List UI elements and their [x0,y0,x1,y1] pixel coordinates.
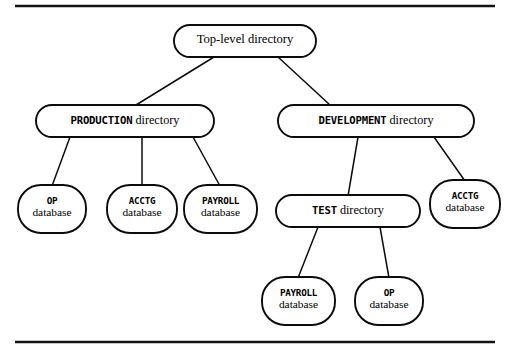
node-label-development-acctg-database-name: ACCTG [430,191,500,201]
node-test-op-database[interactable]: OP database [355,288,423,310]
directory-hierarchy-diagram: Top-level directory PRODUCTION directory… [0,0,507,355]
node-label-test-prefix: TEST [312,204,337,216]
node-label-production-suffix: directory [132,113,179,127]
node-label-development-suffix: directory [386,113,433,127]
node-label-production-acctg-database-type: database [107,206,177,218]
node-test-directory[interactable]: TEST directory [276,204,420,217]
node-development-directory[interactable]: DEVELOPMENT directory [278,114,474,127]
node-label-development-prefix: DEVELOPMENT [318,114,386,126]
node-production-op-database[interactable]: OP database [18,196,86,218]
edge-development-to-acctg [434,137,465,181]
node-production-directory[interactable]: PRODUCTION directory [36,114,214,127]
edge-production-to-op [52,137,70,186]
node-production-acctg-database[interactable]: ACCTG database [107,196,177,218]
node-label-production-payroll-database-type: database [184,206,257,218]
edge-production-to-payroll [193,137,220,186]
node-label-production-op-database-name: OP [18,196,86,206]
nodes-group [18,25,500,325]
node-label-top-level-directory: Top-level directory [197,32,294,46]
edge-top-to-development [278,57,330,105]
edge-top-to-production [136,57,214,105]
node-development-acctg-database[interactable]: ACCTG database [430,191,500,213]
diagram-canvas [0,0,507,355]
node-label-production-prefix: PRODUCTION [71,114,133,126]
node-label-test-op-database-type: database [355,298,423,310]
node-label-test-suffix: directory [337,203,384,217]
node-label-production-acctg-database-name: ACCTG [107,196,177,206]
edges-group [52,57,465,278]
node-label-test-payroll-database-type: database [262,298,335,310]
node-label-production-op-database-type: database [18,206,86,218]
node-top-level-directory[interactable]: Top-level directory [174,33,316,47]
node-label-test-op-database-name: OP [355,288,423,298]
node-production-payroll-database[interactable]: PAYROLL database [184,196,257,218]
node-label-test-payroll-database-name: PAYROLL [262,288,335,298]
edge-development-to-test [348,137,358,196]
edge-test-to-payroll [298,227,318,278]
node-label-production-payroll-database-name: PAYROLL [184,196,257,206]
node-test-payroll-database[interactable]: PAYROLL database [262,288,335,310]
edge-test-to-op [380,227,389,278]
node-label-development-acctg-database-type: database [430,201,500,213]
